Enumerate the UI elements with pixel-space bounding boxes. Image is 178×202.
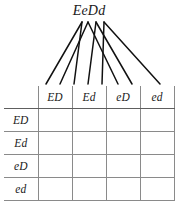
gamete-line-E-1	[74, 22, 82, 84]
gamete-line-D-1	[96, 22, 132, 84]
column-header-2: eD	[106, 86, 140, 109]
table-row: ed	[4, 178, 174, 201]
table-row: ED	[4, 109, 174, 132]
table-row: Ed	[4, 132, 174, 155]
grid-corner-cell	[4, 86, 38, 109]
gamete-line-d-0	[102, 22, 104, 84]
punnett-cell-3-0[interactable]	[38, 178, 72, 201]
punnett-square-diagram: EeDd ED Ed eD ed ED	[0, 0, 178, 202]
parent-genotype-title: EeDd	[0, 3, 178, 19]
punnett-cell-0-0[interactable]	[38, 109, 72, 132]
punnett-cell-1-3[interactable]	[140, 132, 174, 155]
gamete-line-e-1	[88, 22, 118, 84]
punnett-cell-1-0[interactable]	[38, 132, 72, 155]
table-row: eD	[4, 155, 174, 178]
punnett-grid: ED Ed eD ed ED Ed eD	[4, 86, 175, 201]
row-header-1: Ed	[4, 132, 38, 155]
punnett-cell-2-2[interactable]	[106, 155, 140, 178]
punnett-cell-0-2[interactable]	[106, 109, 140, 132]
punnett-cell-3-1[interactable]	[72, 178, 106, 201]
punnett-cell-2-1[interactable]	[72, 155, 106, 178]
punnett-cell-3-2[interactable]	[106, 178, 140, 201]
punnett-cell-0-3[interactable]	[140, 109, 174, 132]
header-row: ED Ed eD ed	[4, 86, 174, 109]
gamete-line-E-0	[46, 22, 82, 84]
gamete-line-d-1	[104, 22, 160, 84]
column-header-1: Ed	[72, 86, 106, 109]
column-header-0: ED	[38, 86, 72, 109]
punnett-cell-0-1[interactable]	[72, 109, 106, 132]
row-header-0: ED	[4, 109, 38, 132]
row-header-3: ed	[4, 178, 38, 201]
gamete-line-e-0	[60, 22, 88, 84]
punnett-cell-2-0[interactable]	[38, 155, 72, 178]
punnett-cell-1-2[interactable]	[106, 132, 140, 155]
column-header-3: ed	[140, 86, 174, 109]
row-header-2: eD	[4, 155, 38, 178]
punnett-cell-2-3[interactable]	[140, 155, 174, 178]
punnett-cell-3-3[interactable]	[140, 178, 174, 201]
punnett-cell-1-1[interactable]	[72, 132, 106, 155]
gamete-line-D-0	[88, 22, 96, 84]
